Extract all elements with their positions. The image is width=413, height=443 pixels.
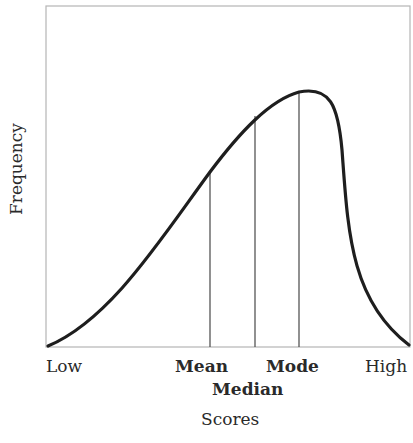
chart-canvas [0, 0, 413, 443]
mode-label: Mode [266, 356, 319, 376]
mean-label: Mean [175, 356, 228, 376]
x-axis-label: Scores [201, 409, 259, 429]
y-axis-label: Frequency [6, 123, 26, 215]
plot-frame [46, 6, 410, 347]
x-tick-low: Low [46, 356, 82, 376]
x-tick-high: High [365, 356, 407, 376]
median-label: Median [212, 379, 283, 399]
distribution-curve [48, 91, 409, 346]
